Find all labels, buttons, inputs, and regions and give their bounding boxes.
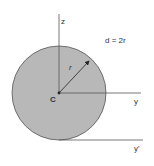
centroid-label: C xyxy=(50,95,56,104)
y-prime-axis-label: y' xyxy=(134,144,140,153)
y-axis-label: y xyxy=(134,97,138,106)
z-axis-label: z xyxy=(61,17,65,26)
centroid-dot xyxy=(58,92,61,95)
radius-label: r xyxy=(69,63,72,72)
circle-section-diagram: z y y' r C d = 2r xyxy=(0,0,154,166)
diameter-annotation: d = 2r xyxy=(105,36,126,45)
